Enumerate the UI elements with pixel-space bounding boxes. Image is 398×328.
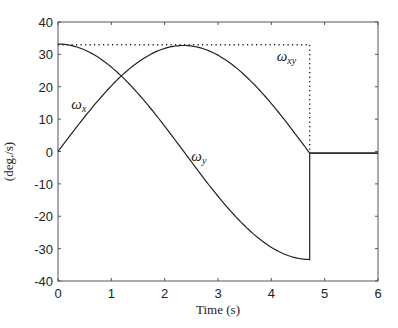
line-chart: 0123456-40-30-20-10010203040Time (s)(deg… <box>0 0 398 328</box>
series-label-xy: ωxy <box>277 48 297 66</box>
x-tick-label: 1 <box>108 286 115 301</box>
x-tick-label: 6 <box>374 286 381 301</box>
series-y-line <box>58 46 378 154</box>
series-xy-line <box>58 45 310 153</box>
chart-root: 0123456-40-30-20-10010203040Time (s)(deg… <box>0 0 398 328</box>
y-tick-label: 20 <box>39 80 53 95</box>
x-tick-label: 3 <box>214 286 221 301</box>
x-tick-label: 5 <box>321 286 328 301</box>
y-tick-label: 10 <box>39 112 53 127</box>
y-axis-label: (deg./s) <box>1 142 16 181</box>
y-tick-label: -20 <box>34 209 53 224</box>
series-label-x: ωx <box>71 96 87 114</box>
x-tick-label: 4 <box>268 286 275 301</box>
plot-frame <box>58 22 378 281</box>
axes: 0123456-40-30-20-10010203040Time (s)(deg… <box>1 15 382 317</box>
series-group <box>58 44 378 260</box>
y-tick-label: -40 <box>34 274 53 289</box>
y-tick-label: -10 <box>34 177 53 192</box>
labels-group: ωxωyωxy <box>71 48 296 166</box>
x-axis-label: Time (s) <box>196 302 240 317</box>
x-tick-label: 2 <box>161 286 168 301</box>
y-tick-label: -30 <box>34 242 53 257</box>
y-tick-label: 30 <box>39 47 53 62</box>
series-label-y: ωy <box>191 148 207 166</box>
x-tick-label: 0 <box>54 286 61 301</box>
series-x-line <box>58 44 378 260</box>
y-tick-label: 40 <box>39 15 53 30</box>
y-tick-label: 0 <box>46 145 53 160</box>
